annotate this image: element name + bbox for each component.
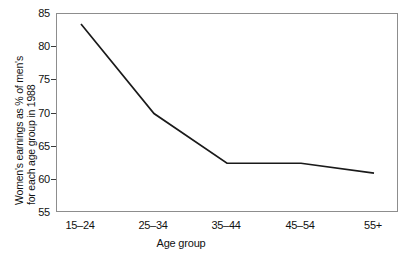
- y-tick-label: 70: [28, 108, 50, 119]
- plot-area: [56, 13, 398, 212]
- y-tick-label: 75: [28, 74, 50, 85]
- x-axis-title-text: Age group: [157, 237, 206, 249]
- x-tick-label: 45–54: [285, 220, 314, 231]
- x-axis-title: Age group: [0, 237, 410, 249]
- x-tick-label: 55+: [364, 220, 382, 231]
- y-axis-title-line-1: Women's earnings as % of men's: [14, 56, 25, 205]
- line-chart-figure: Women's earnings as % of men's for each …: [0, 0, 410, 257]
- y-tick-label: 65: [28, 141, 50, 152]
- y-tick-label: 60: [28, 174, 50, 185]
- data-line-svg: [57, 14, 399, 213]
- data-series-line: [81, 24, 374, 173]
- x-tick-label: 15–24: [65, 220, 94, 231]
- y-axis-title: Women's earnings as % of men's for each …: [0, 0, 30, 215]
- y-tick-label: 55: [28, 207, 50, 218]
- y-tick-label: 85: [28, 8, 50, 19]
- y-axis-tick-labels: 85 80 75 70 65 60 55: [28, 0, 50, 220]
- x-tick-label: 25–34: [138, 220, 167, 231]
- y-tick-label: 80: [28, 41, 50, 52]
- x-tick-label: 35–44: [211, 220, 240, 231]
